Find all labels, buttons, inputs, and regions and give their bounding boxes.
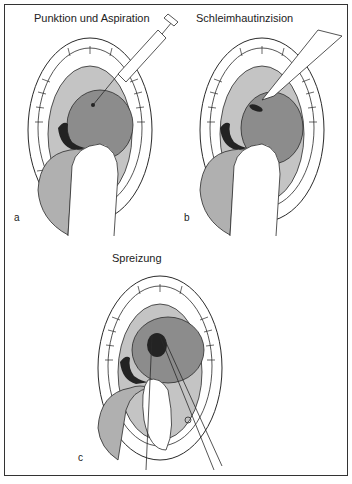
figure-illustration (0, 0, 352, 484)
panel-a-illustration (28, 14, 178, 236)
panel-b-label: b (184, 212, 190, 223)
panel-b-title: Schleimhautinzision (196, 12, 293, 24)
panel-a-title: Punktion und Aspiration (34, 12, 150, 24)
syringe-icon (118, 14, 178, 82)
panel-a-label: a (14, 212, 20, 223)
panel-c-title: Spreizung (112, 252, 162, 264)
panel-c-label: c (78, 452, 83, 463)
panel-c-illustration (98, 276, 222, 470)
panel-b-illustration (200, 30, 342, 236)
